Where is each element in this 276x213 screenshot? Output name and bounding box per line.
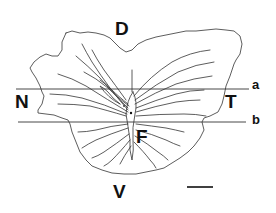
label-ventral: V — [113, 182, 126, 201]
optic-disc — [126, 92, 136, 160]
label-nasal: N — [15, 92, 29, 111]
label-line-b: b — [252, 113, 260, 126]
label-temporal: T — [225, 92, 237, 111]
label-dorsal: D — [115, 19, 129, 38]
label-line-a: a — [252, 78, 259, 91]
label-fovea: F — [136, 127, 148, 146]
retina-diagram: D N T F V a b — [0, 0, 276, 213]
